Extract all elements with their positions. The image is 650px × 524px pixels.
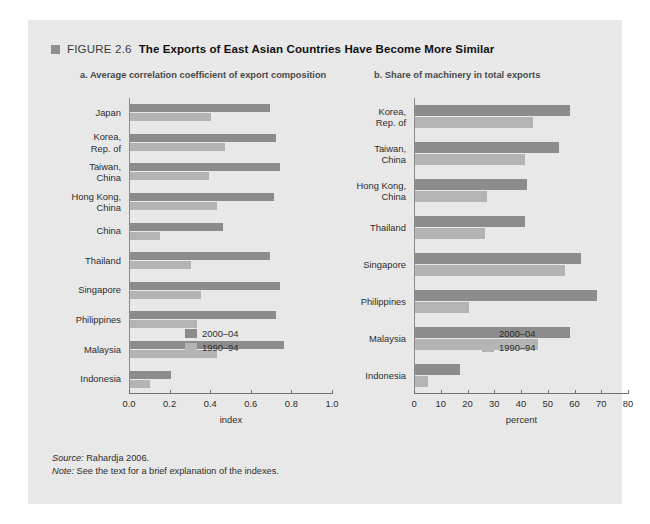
axis-tick bbox=[628, 390, 629, 394]
axis-tick-label: 0.4 bbox=[204, 398, 217, 409]
legend-item-old: 1990–94 bbox=[482, 342, 536, 353]
bar-old bbox=[415, 302, 469, 313]
bar-old bbox=[130, 143, 225, 151]
bar-old bbox=[130, 261, 191, 269]
bar-old bbox=[415, 228, 485, 239]
note-value: See the text for a brief explanation of … bbox=[74, 466, 279, 476]
category-label: Hong Kong,China bbox=[356, 179, 406, 202]
explanatory-note: Note: See the text for a brief explanati… bbox=[52, 465, 279, 478]
axis-tick bbox=[521, 390, 522, 394]
legend-label-old: 1990–94 bbox=[202, 342, 239, 353]
bar-new bbox=[130, 163, 280, 171]
category-label: Korea,Rep. of bbox=[91, 131, 121, 154]
axis-tick-label: 10 bbox=[436, 398, 446, 409]
axis-tick-label: 0 bbox=[411, 398, 416, 409]
category-label: Thailand bbox=[85, 255, 121, 267]
axis-tick bbox=[291, 390, 292, 394]
chart-panel-b: b. Share of machinery in total exports K… bbox=[342, 70, 617, 440]
bar-group: Taiwan,China bbox=[129, 157, 333, 187]
bar-new bbox=[415, 179, 527, 190]
bar-new bbox=[130, 371, 171, 379]
category-label: Singapore bbox=[78, 285, 121, 297]
axis-tick bbox=[548, 390, 549, 394]
bar-old bbox=[130, 232, 160, 240]
source-value: Rahardja 2006. bbox=[84, 453, 149, 463]
category-label: Taiwan,China bbox=[89, 160, 121, 183]
axis-tick-label: 0.2 bbox=[163, 398, 176, 409]
axis-tick-label: 40 bbox=[516, 398, 526, 409]
bar-new bbox=[130, 311, 276, 319]
axis-tick bbox=[441, 390, 442, 394]
axis-tick bbox=[494, 390, 495, 394]
bar-old bbox=[415, 376, 428, 387]
category-label: Philippines bbox=[76, 314, 121, 326]
axis-tick bbox=[601, 390, 602, 394]
axis-tick-label: 20 bbox=[462, 398, 472, 409]
bar-group: Thailand bbox=[129, 246, 333, 276]
category-label: China bbox=[97, 225, 122, 237]
axis-tick bbox=[251, 390, 252, 394]
bar-group: Indonesia bbox=[129, 364, 333, 394]
bar-group: Japan bbox=[129, 98, 333, 128]
bar-old bbox=[415, 117, 533, 128]
figure-notes: Source: Rahardja 2006. Note: See the tex… bbox=[52, 452, 279, 477]
panel-b-legend: 2000–04 1990–94 bbox=[482, 328, 536, 353]
axis-tick-label: 70 bbox=[596, 398, 606, 409]
bar-old bbox=[415, 154, 525, 165]
axis-tick-label: 0.8 bbox=[285, 398, 298, 409]
bar-group: Singapore bbox=[129, 276, 333, 306]
category-label: Thailand bbox=[370, 222, 406, 234]
legend-swatch-old-icon bbox=[185, 343, 197, 352]
bar-new bbox=[415, 105, 570, 116]
bar-new bbox=[415, 216, 525, 227]
figure-number: FIGURE 2.6 bbox=[67, 43, 132, 55]
legend-item-old: 1990–94 bbox=[185, 342, 239, 353]
category-label: Korea,Rep. of bbox=[376, 105, 406, 128]
bar-new bbox=[130, 134, 276, 142]
legend-swatch-new-icon bbox=[482, 329, 494, 338]
bar-group: Korea,Rep. of bbox=[129, 128, 333, 158]
bar-new bbox=[415, 290, 597, 301]
category-label: Philippines bbox=[361, 296, 406, 308]
axis-tick bbox=[575, 390, 576, 394]
source-note: Source: Rahardja 2006. bbox=[52, 452, 279, 465]
x-axis-title: index bbox=[220, 414, 242, 425]
bar-group: Hong Kong,China bbox=[129, 187, 333, 217]
figure-header: FIGURE 2.6 The Exports of East Asian Cou… bbox=[51, 43, 494, 55]
legend-swatch-old-icon bbox=[482, 343, 494, 352]
category-label: Hong Kong,China bbox=[71, 190, 121, 213]
legend-label-new: 2000–04 bbox=[202, 328, 239, 339]
category-label: Indonesia bbox=[365, 370, 406, 382]
chart-panel-a: a. Average correlation coefficient of ex… bbox=[54, 70, 341, 440]
bar-new bbox=[415, 253, 581, 264]
bar-group: China bbox=[129, 216, 333, 246]
bar-group: Philippines bbox=[414, 283, 629, 320]
panel-a-subtitle: a. Average correlation coefficient of ex… bbox=[80, 70, 326, 80]
legend-label-new: 2000–04 bbox=[499, 328, 536, 339]
axis-tick-label: 60 bbox=[569, 398, 579, 409]
axis-tick-label: 1.0 bbox=[325, 398, 338, 409]
bar-old bbox=[415, 191, 487, 202]
bar-old bbox=[130, 172, 209, 180]
figure-card: FIGURE 2.6 The Exports of East Asian Cou… bbox=[28, 20, 622, 504]
category-label: Indonesia bbox=[80, 373, 121, 385]
square-marker-icon bbox=[51, 45, 60, 54]
bar-new bbox=[130, 104, 270, 112]
bar-group: Hong Kong,China bbox=[414, 172, 629, 209]
axis-tick bbox=[210, 390, 211, 394]
note-label: Note: bbox=[52, 466, 74, 476]
panel-b-subtitle: b. Share of machinery in total exports bbox=[374, 70, 540, 80]
bar-old bbox=[130, 380, 150, 388]
axis-tick bbox=[414, 390, 415, 394]
bar-group: Thailand bbox=[414, 209, 629, 246]
legend-item-new: 2000–04 bbox=[185, 328, 239, 339]
panel-a-legend: 2000–04 1990–94 bbox=[185, 328, 239, 353]
bar-old bbox=[415, 265, 565, 276]
category-label: Taiwan,China bbox=[374, 142, 406, 165]
axis-tick bbox=[170, 390, 171, 394]
legend-label-old: 1990–94 bbox=[499, 342, 536, 353]
page-title: The Exports of East Asian Countries Have… bbox=[139, 43, 495, 55]
bar-group: Singapore bbox=[414, 246, 629, 283]
bar-group: Taiwan,China bbox=[414, 135, 629, 172]
source-label: Source: bbox=[52, 453, 84, 463]
